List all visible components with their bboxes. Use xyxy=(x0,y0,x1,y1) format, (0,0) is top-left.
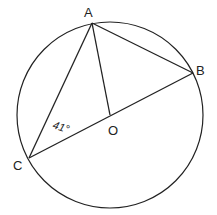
segment-ab xyxy=(92,23,193,73)
point-label-o: O xyxy=(108,123,118,138)
segment-ac xyxy=(29,23,92,158)
radius-ao xyxy=(92,23,110,115)
point-label-b: B xyxy=(196,63,205,78)
angle-label-c: 41° xyxy=(51,118,71,135)
circle-geometry-diagram: A B C O 41° xyxy=(0,0,217,215)
point-label-a: A xyxy=(84,5,93,20)
diameter-cb xyxy=(29,73,193,158)
point-label-c: C xyxy=(13,158,22,173)
